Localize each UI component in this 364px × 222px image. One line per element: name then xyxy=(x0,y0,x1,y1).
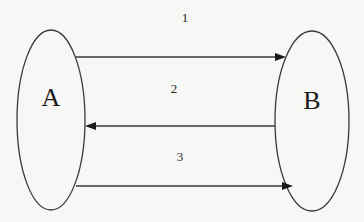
edge-2-label: 2 xyxy=(171,81,178,96)
edge-3-a-to-b: 3 xyxy=(76,149,293,190)
node-a-ellipse xyxy=(17,30,85,210)
edge-2-b-to-a: 2 xyxy=(85,81,275,130)
edge-1-label: 1 xyxy=(182,10,189,25)
diagram-canvas: A B 1 2 3 xyxy=(0,0,364,222)
edge-3-label: 3 xyxy=(177,149,184,164)
edge-1-a-to-b: 1 xyxy=(76,10,286,61)
arrowhead-left-icon xyxy=(85,122,96,130)
node-a: A xyxy=(17,30,85,210)
node-a-label: A xyxy=(42,83,61,112)
node-b-label: B xyxy=(303,86,320,115)
